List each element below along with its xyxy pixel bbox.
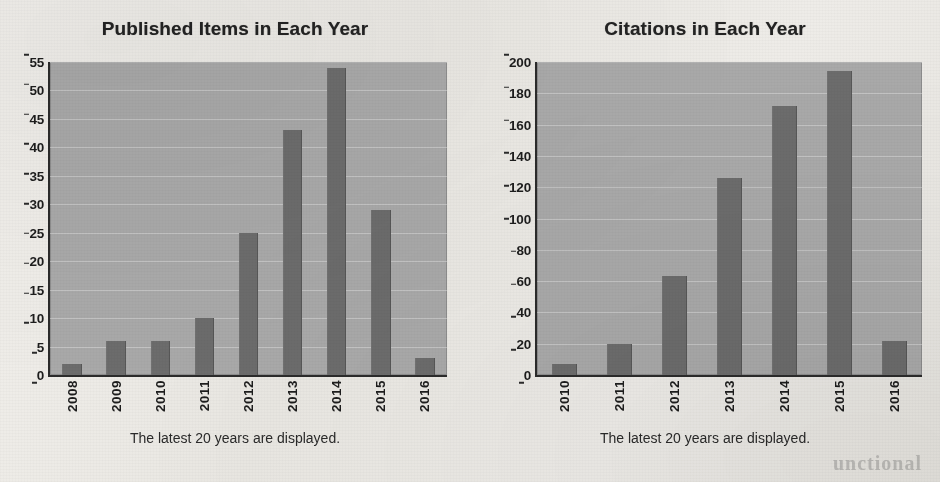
y-tick-mark xyxy=(24,54,29,56)
y-tick-mark xyxy=(32,352,37,354)
y-tick-label: 140 xyxy=(509,148,531,163)
y-tick-label: 0 xyxy=(37,368,44,383)
bar[interactable] xyxy=(106,341,125,375)
bar-slot[interactable] xyxy=(647,62,702,375)
y-tick-mark xyxy=(504,218,509,220)
plot-area-published-items: 0510152025303540455055 20082009201020112… xyxy=(50,62,447,375)
y-tick-mark xyxy=(24,322,29,324)
bar-slot[interactable] xyxy=(537,62,592,375)
x-tick-label: 2013 xyxy=(722,380,737,412)
x-tick-label: 2011 xyxy=(612,380,627,411)
chart-title-published-items: Published Items in Each Year xyxy=(0,18,470,40)
bar-slot[interactable] xyxy=(94,62,138,375)
y-tick-mark xyxy=(511,251,516,253)
chart-title-citations: Citations in Each Year xyxy=(470,18,940,40)
bar[interactable] xyxy=(882,341,906,375)
y-tick-label: 0 xyxy=(524,368,531,383)
bar[interactable] xyxy=(607,344,631,375)
bar[interactable] xyxy=(327,68,346,375)
bar-slot[interactable] xyxy=(50,62,94,375)
bar[interactable] xyxy=(772,106,796,375)
bar[interactable] xyxy=(415,358,434,375)
chart-caption-published-items: The latest 20 years are displayed. xyxy=(0,430,470,446)
y-tick-label: 5 xyxy=(37,339,44,354)
bar-slot[interactable] xyxy=(271,62,315,375)
y-axis-labels-citations: 020406080100120140160180200 xyxy=(483,62,531,375)
y-tick-mark xyxy=(24,233,29,235)
x-tick-label: 2016 xyxy=(417,380,432,412)
x-axis-line-published-items xyxy=(48,375,447,377)
x-tick-label: 2009 xyxy=(109,380,124,412)
x-tick-label: 2012 xyxy=(241,380,256,412)
bar[interactable] xyxy=(827,71,851,375)
x-tick-label: 2014 xyxy=(777,380,792,412)
y-tick-label: 50 xyxy=(29,83,44,98)
bar[interactable] xyxy=(283,130,302,375)
y-tick-mark xyxy=(24,262,29,264)
bar-slot[interactable] xyxy=(757,62,812,375)
bar-slot[interactable] xyxy=(315,62,359,375)
bar-slot[interactable] xyxy=(702,62,757,375)
bar-slot[interactable] xyxy=(359,62,403,375)
y-tick-label: 100 xyxy=(509,211,531,226)
y-tick-mark xyxy=(504,87,509,89)
y-tick-label: 120 xyxy=(509,180,531,195)
y-tick-mark xyxy=(504,185,509,187)
bar[interactable] xyxy=(371,210,390,375)
chart-caption-citations: The latest 20 years are displayed. xyxy=(470,430,940,446)
x-tick-label: 2011 xyxy=(197,380,212,411)
y-tick-label: 60 xyxy=(516,274,531,289)
x-axis-line-citations xyxy=(535,375,922,377)
bar[interactable] xyxy=(662,276,686,375)
y-tick-label: 20 xyxy=(516,336,531,351)
chart-pair-container: Published Items in Each Year 05101520253… xyxy=(0,0,940,482)
y-tick-label: 35 xyxy=(29,168,44,183)
y-tick-label: 30 xyxy=(29,197,44,212)
bar-slot[interactable] xyxy=(403,62,447,375)
y-tick-mark xyxy=(24,203,29,205)
x-tick-label: 2010 xyxy=(557,380,572,412)
panel-citations: Citations in Each Year 02040608010012014… xyxy=(470,0,940,482)
x-tick-label: 2015 xyxy=(373,380,388,412)
bar[interactable] xyxy=(552,364,576,375)
bar[interactable] xyxy=(239,233,258,375)
y-tick-label: 20 xyxy=(29,254,44,269)
y-tick-label: 15 xyxy=(29,282,44,297)
bar[interactable] xyxy=(195,318,214,375)
y-tick-mark xyxy=(24,113,29,115)
y-tick-mark xyxy=(504,152,509,154)
x-tick-label: 2015 xyxy=(832,380,847,412)
y-tick-mark xyxy=(504,54,509,56)
bar-slot[interactable] xyxy=(226,62,270,375)
x-tick-label: 2012 xyxy=(667,380,682,412)
bar[interactable] xyxy=(62,364,81,375)
bar-slot[interactable] xyxy=(867,62,922,375)
y-tick-mark xyxy=(504,119,509,121)
y-tick-label: 200 xyxy=(509,55,531,70)
y-tick-label: 180 xyxy=(509,86,531,101)
y-tick-mark xyxy=(24,292,29,294)
y-tick-label: 160 xyxy=(509,117,531,132)
y-tick-mark xyxy=(32,382,37,384)
bar[interactable] xyxy=(717,178,741,375)
y-axis-labels-published-items: 0510152025303540455055 xyxy=(0,62,44,375)
bar-slot[interactable] xyxy=(182,62,226,375)
panel-published-items: Published Items in Each Year 05101520253… xyxy=(0,0,470,482)
bar-slot[interactable] xyxy=(812,62,867,375)
bar-slot[interactable] xyxy=(592,62,647,375)
bar[interactable] xyxy=(151,341,170,375)
plot-area-citations: 020406080100120140160180200 201020112012… xyxy=(537,62,922,375)
x-tick-label: 2010 xyxy=(153,380,168,412)
x-tick-label: 2013 xyxy=(285,380,300,412)
y-tick-mark xyxy=(24,173,29,175)
x-tick-label: 2008 xyxy=(65,380,80,412)
bar-slot[interactable] xyxy=(138,62,182,375)
bar-series-published-items xyxy=(50,62,447,375)
y-tick-mark xyxy=(24,143,29,145)
x-tick-label: 2016 xyxy=(887,380,902,412)
x-tick-label: 2014 xyxy=(329,380,344,412)
y-tick-mark xyxy=(519,382,524,384)
y-tick-mark xyxy=(511,283,516,285)
y-tick-label: 55 xyxy=(29,55,44,70)
bar-series-citations xyxy=(537,62,922,375)
